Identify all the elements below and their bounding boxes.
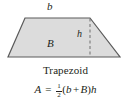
bottom-base-label: B — [47, 38, 54, 49]
formula-equals: = — [44, 83, 53, 95]
formula-lhs: A — [34, 83, 41, 95]
trapezoid-area-figure: b B h Trapezoid A = 1 2 (b+B)h — [0, 0, 131, 102]
fraction-denominator: 2 — [56, 92, 62, 100]
formula-multiplier: h — [91, 83, 97, 95]
area-formula: A = 1 2 (b+B)h — [0, 83, 131, 99]
fraction-numerator: 1 — [56, 83, 62, 91]
one-half-fraction: 1 2 — [56, 83, 62, 99]
shape-caption: Trapezoid — [0, 64, 131, 76]
formula-plus: + — [71, 83, 80, 95]
height-label: h — [77, 29, 82, 39]
top-base-label: b — [47, 1, 53, 12]
trapezoid-shape — [8, 18, 120, 57]
